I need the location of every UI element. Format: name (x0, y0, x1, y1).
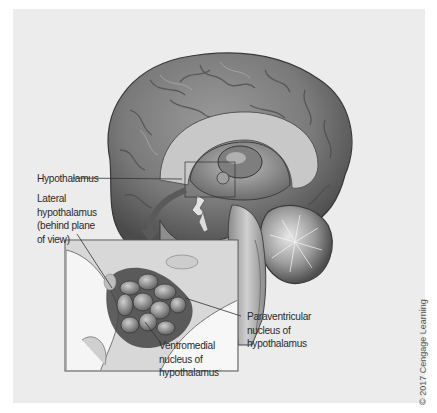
label-line: Paraventricular (247, 310, 311, 324)
cerebellum (260, 206, 332, 284)
label-line: nucleus of (247, 324, 311, 338)
label-hypothalamus: Hypothalamus (37, 172, 99, 186)
label-line: Ventromedial (159, 339, 219, 353)
label-paraventricular-nucleus: Paraventricular nucleus of hypothalamus (247, 310, 311, 351)
label-line: hypothalamus (247, 337, 311, 351)
label-line: Lateral (37, 192, 97, 206)
label-ventromedial-nucleus: Ventromedial nucleus of hypothalamus (159, 339, 219, 380)
copyright-credit: © 2017 Cengage Learning (418, 299, 428, 405)
label-line: (behind plane (37, 219, 97, 233)
label-line: hypothalamus (37, 206, 97, 220)
label-line: hypothalamus (159, 366, 219, 380)
label-line: nucleus of (159, 353, 219, 367)
label-lateral-hypothalamus: Lateral hypothalamus (behind plane of vi… (37, 192, 97, 246)
label-text: Hypothalamus (37, 172, 99, 184)
label-line: of view) (37, 233, 97, 247)
